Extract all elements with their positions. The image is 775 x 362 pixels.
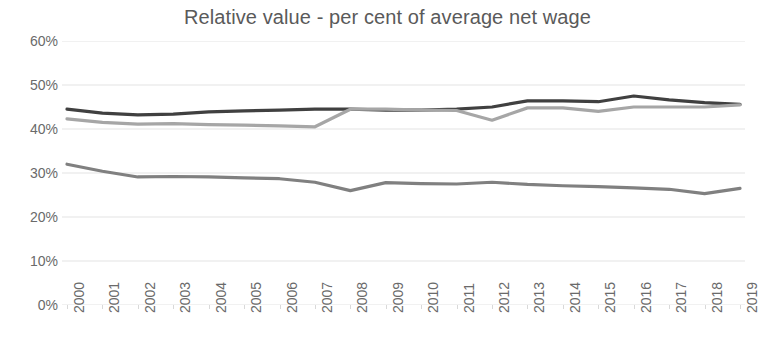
x-axis: 2000200120022003200420052006200720082009… <box>62 305 745 362</box>
line-chart-svg <box>62 41 745 305</box>
x-tick-mark-2005 <box>244 305 245 309</box>
x-tick-label-2012: 2012 <box>497 282 511 313</box>
y-tick-label-30: 30% <box>2 166 58 180</box>
x-tick-label-2005: 2005 <box>249 282 263 313</box>
x-tick-mark-2004 <box>209 305 210 309</box>
x-tick-label-2009: 2009 <box>391 282 405 313</box>
gridlines <box>62 41 745 305</box>
x-tick-label-2008: 2008 <box>355 282 369 313</box>
series-line-series-2-light <box>67 105 740 127</box>
x-tick-label-2015: 2015 <box>603 282 617 313</box>
x-tick-label-2002: 2002 <box>143 282 157 313</box>
series-lines <box>67 96 740 194</box>
x-tick-mark-2000 <box>67 305 68 309</box>
y-tick-label-40: 40% <box>2 122 58 136</box>
x-tick-label-2011: 2011 <box>462 283 476 313</box>
x-tick-mark-2002 <box>138 305 139 309</box>
x-tick-mark-2008 <box>350 305 351 309</box>
x-tick-mark-2011 <box>457 305 458 309</box>
x-tick-label-2007: 2007 <box>320 282 334 313</box>
x-tick-mark-2019 <box>740 305 741 309</box>
x-tick-mark-2014 <box>563 305 564 309</box>
x-tick-mark-2006 <box>280 305 281 309</box>
chart-screenshot: Relative value - per cent of average net… <box>0 0 775 362</box>
x-tick-label-2019: 2019 <box>745 282 759 313</box>
x-tick-mark-2001 <box>102 305 103 309</box>
x-tick-label-2017: 2017 <box>674 282 688 313</box>
x-tick-mark-2012 <box>492 305 493 309</box>
x-tick-mark-2015 <box>598 305 599 309</box>
x-tick-label-2003: 2003 <box>178 282 192 313</box>
x-tick-label-2004: 2004 <box>214 282 228 313</box>
y-axis: 60%50%40%30%20%10%0% <box>0 0 58 362</box>
x-tick-label-2016: 2016 <box>639 282 653 313</box>
x-tick-label-2018: 2018 <box>710 282 724 313</box>
x-tick-mark-2017 <box>669 305 670 309</box>
y-tick-label-50: 50% <box>2 78 58 92</box>
x-tick-label-2006: 2006 <box>285 282 299 313</box>
x-tick-mark-2016 <box>634 305 635 309</box>
x-tick-mark-2018 <box>705 305 706 309</box>
x-tick-label-2013: 2013 <box>532 282 546 313</box>
y-tick-label-60: 60% <box>2 34 58 48</box>
x-tick-label-2001: 2001 <box>107 282 121 313</box>
x-tick-mark-2007 <box>315 305 316 309</box>
x-tick-label-2014: 2014 <box>568 282 582 313</box>
y-tick-label-10: 10% <box>2 254 58 268</box>
plot-area <box>62 41 745 305</box>
chart-title: Relative value - per cent of average net… <box>0 6 775 29</box>
x-tick-mark-2009 <box>386 305 387 309</box>
y-tick-label-0: 0% <box>2 298 58 312</box>
x-tick-mark-2003 <box>173 305 174 309</box>
x-tick-mark-2010 <box>421 305 422 309</box>
x-tick-label-2000: 2000 <box>72 282 86 313</box>
x-tick-mark-2013 <box>527 305 528 309</box>
x-tick-label-2010: 2010 <box>426 282 440 313</box>
series-line-series-3-medium <box>67 164 740 193</box>
y-tick-label-20: 20% <box>2 210 58 224</box>
